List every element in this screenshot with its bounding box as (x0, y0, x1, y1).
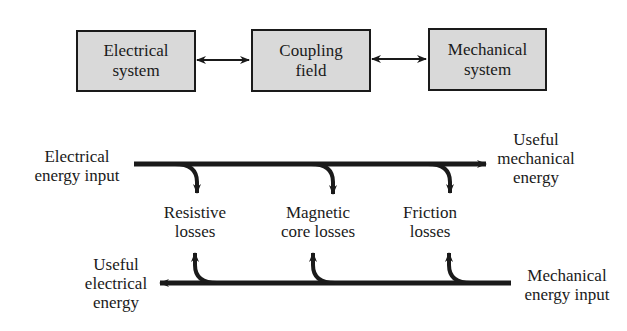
label-line: electrical (76, 274, 156, 293)
resistive-losses-label: Resistive losses (150, 203, 240, 241)
useful-electrical-energy-label: Useful electrical energy (76, 255, 156, 312)
label-line: mechanical (488, 149, 584, 168)
block-label-line: system (448, 60, 527, 80)
resistive-loss-branch-top (175, 164, 197, 193)
friction-loss-branch-top (428, 164, 450, 193)
block-label-line: Electrical (103, 41, 168, 61)
block-label-line: Mechanical (448, 40, 527, 60)
electrical-energy-input-label: Electrical energy input (22, 147, 132, 185)
label-line: losses (390, 222, 470, 241)
label-line: core losses (268, 222, 368, 241)
label-line: energy (488, 168, 584, 187)
mechanical-system-block: Mechanicalsystem (428, 28, 547, 91)
label-line: losses (150, 222, 240, 241)
friction-losses-label: Friction losses (390, 203, 470, 241)
electrical-system-block: Electricalsystem (76, 30, 196, 92)
coupling-field-block: Couplingfield (251, 29, 371, 92)
label-line: energy input (514, 285, 620, 304)
label-line: Mechanical (514, 266, 620, 285)
magnetic-loss-branch-top (311, 164, 333, 194)
label-line: energy (76, 293, 156, 312)
mechanical-energy-input-label: Mechanical energy input (514, 266, 620, 304)
resistive-loss-branch-bottom (195, 253, 217, 283)
block-label-line: system (103, 61, 168, 81)
friction-loss-branch-bottom (449, 253, 471, 283)
label-line: Electrical (22, 147, 132, 166)
magnetic-loss-branch-bottom (313, 253, 335, 283)
label-line: Resistive (150, 203, 240, 222)
label-line: Magnetic (268, 203, 368, 222)
label-line: Useful (76, 255, 156, 274)
magnetic-core-losses-label: Magnetic core losses (268, 203, 368, 241)
useful-mechanical-energy-label: Useful mechanical energy (488, 130, 584, 187)
label-line: Friction (390, 203, 470, 222)
label-line: Useful (488, 130, 584, 149)
label-line: energy input (22, 166, 132, 185)
block-label-line: Coupling (279, 41, 342, 61)
block-label-line: field (279, 61, 342, 81)
